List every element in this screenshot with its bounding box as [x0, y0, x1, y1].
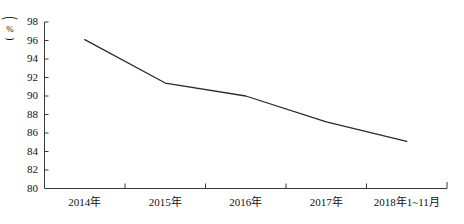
data-series-line [85, 40, 407, 142]
x-tick-label: 2015年 [125, 196, 206, 208]
y-tick-label: 94 [16, 53, 38, 64]
y-tick-label: 84 [16, 146, 38, 157]
x-tick-label: 2018年1~11月 [367, 196, 448, 208]
y-tick-label: 98 [16, 16, 38, 27]
x-tick-label: 2016年 [206, 196, 287, 208]
y-tick-label: 96 [16, 35, 38, 46]
x-tick-marks [125, 184, 367, 189]
y-tick-label: 90 [16, 90, 38, 101]
x-tick-label: 2014年 [45, 196, 126, 208]
y-tick-label: 80 [16, 183, 38, 194]
y-tick-label: 82 [16, 164, 38, 175]
x-tick-label: 2017年 [286, 196, 367, 208]
y-tick-marks [45, 22, 49, 189]
y-tick-label: 86 [16, 127, 38, 138]
y-tick-label: 92 [16, 72, 38, 83]
y-tick-label: 88 [16, 109, 38, 120]
axis-lines [45, 22, 448, 189]
plot-area [0, 0, 464, 224]
line-chart: ⌒ % ⌣ 80828486889092949698 2014年2015年201… [0, 0, 464, 224]
